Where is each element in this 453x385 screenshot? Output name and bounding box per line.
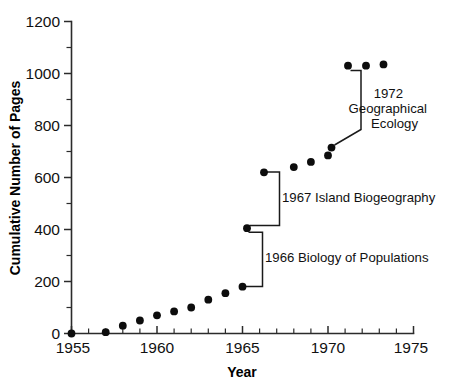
data-point [222,289,230,297]
annotation-geographical-ecology-line2: Geographical [349,101,428,116]
x-ticklabel-1955: 1955 [56,339,90,356]
x-ticklabel-1960: 1960 [140,339,175,356]
y-axis-ticks [64,22,72,334]
y-ticklabel-1000: 1000 [26,65,61,82]
annotation-island-biogeography: 1967 Island Biogeography [282,190,436,205]
data-point [187,304,195,312]
annotation-labels: 1966 Biology of Populations 1967 Island … [265,86,436,265]
data-point [204,296,212,304]
data-point [119,322,127,330]
data-point [290,163,298,171]
data-point [380,61,388,69]
data-point [362,62,370,70]
data-point [260,168,268,176]
data-point [328,144,336,152]
y-ticklabel-200: 200 [34,273,60,290]
data-point [324,152,332,160]
y-ticklabel-400: 400 [34,221,60,238]
annotation-geographical-ecology-line3: Ecology [371,116,418,131]
data-point [307,158,315,166]
annotation-geographical-ecology-line1: 1972 [374,86,403,101]
cumulative-pages-scatter-plot: 1200 1000 800 600 400 200 0 [0,0,453,385]
x-ticklabel-1970: 1970 [311,339,346,356]
data-point [102,328,110,336]
data-point [243,224,251,232]
x-axis-tick-labels: 1955 1960 1965 1970 1975 [56,339,428,356]
data-point [136,317,144,325]
data-point [239,283,247,291]
data-point [68,330,76,338]
y-ticklabel-800: 800 [34,117,60,134]
chart-figure: 1200 1000 800 600 400 200 0 [0,0,453,385]
y-axis-tick-labels: 1200 1000 800 600 400 200 0 [26,13,61,342]
y-axis-title: Cumulative Number of Pages [7,81,23,276]
leader-line-island-biogeography [250,172,280,226]
annotation-biology-of-populations: 1966 Biology of Populations [265,250,429,265]
leader-line-biology-of-populations [244,232,263,286]
x-ticklabel-1965: 1965 [225,339,259,356]
y-ticklabel-1200: 1200 [26,13,61,30]
data-point [153,311,161,319]
x-axis-title: Year [227,364,257,380]
y-ticklabel-600: 600 [34,169,60,186]
x-ticklabel-1975: 1975 [394,339,428,356]
data-point [344,62,352,70]
data-point [170,308,178,316]
